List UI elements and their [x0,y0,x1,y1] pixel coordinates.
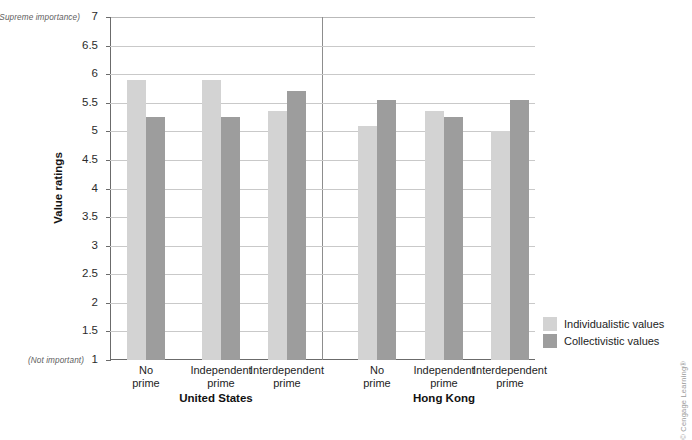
bar-collectivistic [377,100,396,360]
y-axis-tick-label: 7 [92,11,98,23]
chart-legend: Individualistic valuesCollectivistic val… [543,316,683,350]
legend-item: Collectivistic values [543,333,683,349]
bar-collectivistic [444,117,463,360]
legend-swatch-icon [543,334,557,348]
legend-item: Individualistic values [543,316,683,332]
y-axis-tick-label: 1.5 [82,326,98,338]
gridline [110,189,535,190]
gridline [110,246,535,247]
y-axis-tick-mark [106,360,111,361]
y-axis-tick-label: 2 [92,297,98,309]
y-axis-tick-label: 4 [92,183,98,195]
legend-label: Collectivistic values [564,335,659,347]
y-axis-title: Value ratings [52,152,64,224]
y-axis-tick-label: 3.5 [82,211,98,223]
gridline [110,303,535,304]
y-axis-tick-label: 6.5 [82,40,98,52]
y-axis-bottom-anchor-label: (Not important) [28,356,84,365]
y-axis-tick-label: 3 [92,240,98,252]
gridline [110,131,535,132]
gridline [110,46,535,47]
gridline [110,74,535,75]
y-axis-tick-label: 2.5 [82,269,98,281]
bar-individualistic [358,126,377,360]
bar-individualistic [425,111,444,360]
legend-label: Individualistic values [564,318,664,330]
bar-individualistic [491,131,510,360]
y-axis-tick-label: 6 [92,68,98,80]
y-axis-tick-label: 4.5 [82,154,98,166]
gridline [110,103,535,104]
gridline [110,217,535,218]
bar-collectivistic [146,117,165,360]
y-axis-tick-label: 5.5 [82,97,98,109]
gridline [110,331,535,332]
bar-individualistic [202,80,221,360]
x-axis-category-label: Interdependent prime [460,364,560,389]
gridline [110,274,535,275]
y-axis-top-anchor-label: (Supreme importance) [0,13,80,22]
copyright-notice: © Cengage Learning® [679,361,688,440]
gridline [110,160,535,161]
x-axis-category-label: Interdependent prime [237,364,337,389]
group-label-united-states: United States [179,392,253,404]
bar-collectivistic [510,100,529,360]
group-label-hong-kong: Hong Kong [413,392,475,404]
y-axis-tick-label: 5 [92,126,98,138]
legend-swatch-icon [543,317,557,331]
bar-individualistic [127,80,146,360]
bar-collectivistic [221,117,240,360]
bar-individualistic [268,111,287,360]
bar-collectivistic [287,91,306,360]
